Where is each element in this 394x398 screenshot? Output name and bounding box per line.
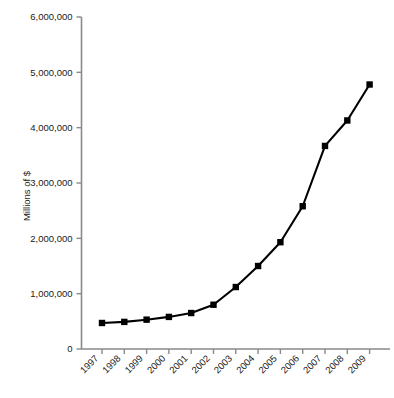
y-tick-label: 5,000,000 — [30, 67, 72, 78]
chart-canvas: Millions of $ 01,000,0002,000,0003,000,0… — [0, 0, 394, 398]
data-point-marker — [344, 117, 350, 123]
data-point-marker — [188, 310, 194, 316]
line-chart: Millions of $ 01,000,0002,000,0003,000,0… — [0, 0, 394, 398]
y-tick-label: 2,000,000 — [30, 233, 72, 244]
data-point-marker — [166, 314, 172, 320]
data-point-marker — [233, 284, 239, 290]
y-tick-label: 1,000,000 — [30, 288, 72, 299]
data-point-marker — [210, 302, 216, 308]
data-point-marker — [143, 316, 149, 322]
y-tick-label: 4,000,000 — [30, 122, 72, 133]
data-point-marker — [300, 203, 306, 209]
data-point-marker — [255, 263, 261, 269]
data-point-marker — [99, 320, 105, 326]
data-point-marker — [322, 143, 328, 149]
y-tick-label: 0 — [67, 343, 72, 354]
data-point-marker — [121, 319, 127, 325]
data-point-marker — [277, 239, 283, 245]
y-tick-label: 3,000,000 — [30, 177, 72, 188]
chart-background — [0, 0, 394, 398]
y-tick-label: 6,000,000 — [30, 11, 72, 22]
data-point-marker — [366, 81, 372, 87]
